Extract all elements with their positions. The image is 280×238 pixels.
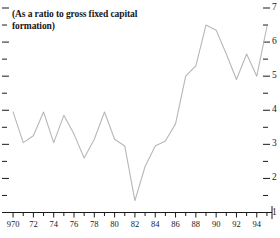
x-tick-label: 80 [110,219,119,229]
x-tick-label: 78 [90,219,99,229]
y-tick-label: 2 [272,172,277,182]
x-tick-label: 92 [232,219,241,229]
y-tick-label: 7 [272,2,277,12]
x-tick-label: 970 [7,219,20,229]
x-tick-label: 84 [151,219,160,229]
y-tick-label: 4 [272,104,277,114]
y-tick-label: 5 [272,70,277,80]
x-tick-label: 76 [70,219,79,229]
x-tick-label: 90 [212,219,221,229]
x-tick-label: 72 [29,219,38,229]
y-tick-label: 3 [272,138,277,148]
y-tick-label: 1 [272,207,277,217]
x-tick-label: 82 [131,219,140,229]
data-series [13,25,267,201]
chart-figure: (As a ratio to gross fixed capital forma… [0,0,280,238]
y-tick-label: 6 [272,36,277,46]
chart-plot-area [0,0,280,238]
x-tick-label: 74 [49,219,58,229]
x-tick-label: 88 [192,219,201,229]
x-axis [8,213,272,218]
x-tick-label: 86 [171,219,180,229]
x-tick-label: 94 [253,219,262,229]
